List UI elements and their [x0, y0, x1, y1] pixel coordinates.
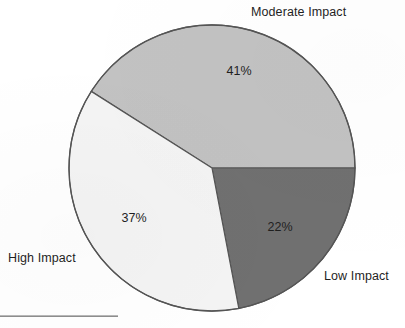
bottom-rule-artifact [0, 315, 118, 317]
pie-chart-figure: 41% 22% 37% Moderate Impact Low Impact H… [0, 0, 405, 328]
pie-category-label-high-impact: High Impact [8, 252, 76, 266]
pie-category-label-moderate-impact: Moderate Impact [251, 6, 346, 20]
slice-value-moderate-impact: 41% [226, 64, 251, 78]
pie-category-label-low-impact: Low Impact [324, 270, 389, 284]
slice-value-high-impact: 37% [121, 211, 146, 225]
slice-value-low-impact: 22% [267, 220, 292, 234]
